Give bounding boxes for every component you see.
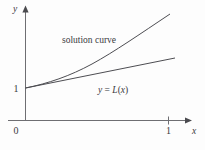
- y-axis-label: y: [12, 4, 18, 14]
- x-axis-arrow-icon: [185, 117, 192, 123]
- x-tick-label-1: 1: [166, 125, 171, 136]
- linearization-line-path: [26, 58, 176, 88]
- solution-curve-path: [26, 14, 171, 88]
- y-axis-arrow-icon: [22, 6, 28, 13]
- solution-curve-label: solution curve: [62, 35, 116, 45]
- linearization-label-equals: =: [102, 85, 112, 95]
- origin-label: 0: [14, 125, 19, 136]
- y-tick-label-1: 1: [14, 83, 19, 94]
- linearization-figure: y x 0 1 1 solution curve y = L(x): [0, 0, 205, 150]
- linearization-label-close-paren: ): [125, 85, 128, 96]
- linearization-label: y = L(x): [97, 85, 128, 96]
- x-axis-label: x: [191, 126, 197, 136]
- figure-container: y x 0 1 1 solution curve y = L(x): [0, 0, 205, 150]
